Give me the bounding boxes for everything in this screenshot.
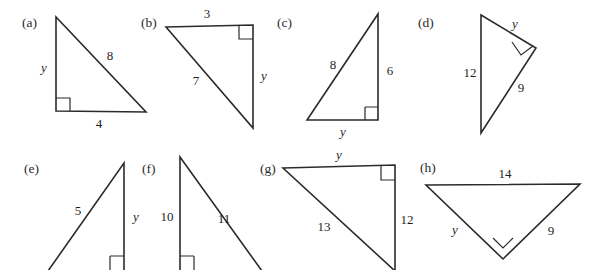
panel-h-letter: (h) bbox=[420, 160, 436, 175]
panel-e-letter: (e) bbox=[24, 161, 39, 176]
panel-b-right-angle-marker bbox=[239, 26, 253, 39]
panel-a-right-angle-marker bbox=[56, 98, 70, 111]
panel-b: (b) 3 y 7 bbox=[141, 6, 267, 128]
panel-h-right-angle-marker bbox=[493, 238, 513, 248]
panel-a-label-leg-vertical: y bbox=[39, 60, 47, 75]
panel-g-letter: (g) bbox=[260, 161, 276, 176]
panel-g-triangle-outline bbox=[283, 165, 395, 270]
panel-h-label-leg-right: 9 bbox=[548, 223, 555, 238]
panel-a-label-leg-horizontal: 4 bbox=[96, 116, 103, 131]
panel-e-label-hypotenuse: 5 bbox=[75, 203, 82, 218]
triangles-diagram: (a) y 8 4 (b) 3 y 7 (c) 8 6 y (d) bbox=[0, 0, 595, 270]
panel-e: (e) 5 y bbox=[24, 161, 139, 270]
panel-d-label-hypotenuse: 12 bbox=[464, 65, 477, 80]
panel-h-label-leg-left: y bbox=[450, 222, 458, 237]
panel-c-right-angle-marker bbox=[365, 107, 378, 120]
panel-f-letter: (f) bbox=[142, 161, 156, 176]
panel-g-label-leg-vertical: 12 bbox=[401, 212, 414, 227]
panel-d-letter: (d) bbox=[418, 15, 434, 30]
panel-d: (d) y 12 9 bbox=[418, 15, 536, 133]
panel-h: (h) 14 y 9 bbox=[420, 160, 580, 259]
panel-g: (g) y 12 13 bbox=[260, 147, 414, 270]
panel-b-letter: (b) bbox=[141, 15, 157, 30]
panel-c-triangle-outline bbox=[307, 14, 378, 120]
panel-c-label-hypotenuse: 8 bbox=[330, 57, 337, 72]
panel-d-triangle-outline bbox=[481, 15, 536, 133]
panel-d-label-leg-upper: y bbox=[510, 16, 518, 31]
panel-b-triangle-outline bbox=[166, 25, 253, 128]
panel-d-label-leg-lower: 9 bbox=[518, 80, 525, 95]
panel-c-label-leg-vertical: 6 bbox=[387, 63, 394, 78]
panel-e-triangle-outline bbox=[48, 163, 124, 270]
panel-f: (f) 10 11 bbox=[142, 157, 262, 270]
panel-g-label-leg-top: y bbox=[334, 147, 342, 162]
panel-b-label-leg-top: 3 bbox=[204, 6, 211, 21]
panel-b-label-hypotenuse: 7 bbox=[193, 73, 200, 88]
panel-e-label-leg-vertical: y bbox=[131, 209, 139, 224]
panel-f-label-hypotenuse: 11 bbox=[218, 211, 231, 226]
panel-f-right-angle-marker bbox=[180, 256, 194, 270]
panel-g-right-angle-marker bbox=[381, 166, 395, 180]
panel-c-letter: (c) bbox=[277, 15, 292, 30]
panel-a-label-hypotenuse: 8 bbox=[107, 48, 114, 63]
panel-f-label-leg-vertical: 10 bbox=[161, 209, 174, 224]
worksheet-figure: (a) y 8 4 (b) 3 y 7 (c) 8 6 y (d) bbox=[0, 0, 595, 270]
panel-g-label-hypotenuse: 13 bbox=[318, 219, 331, 234]
panel-a-letter: (a) bbox=[22, 15, 37, 30]
panel-e-right-angle-marker bbox=[110, 256, 124, 270]
panel-c: (c) 8 6 y bbox=[277, 14, 394, 139]
panel-b-label-leg-vertical: y bbox=[259, 68, 267, 83]
panel-h-label-hypotenuse: 14 bbox=[499, 166, 513, 181]
panel-a: (a) y 8 4 bbox=[22, 15, 146, 131]
panel-c-label-leg-horizontal: y bbox=[338, 124, 346, 139]
